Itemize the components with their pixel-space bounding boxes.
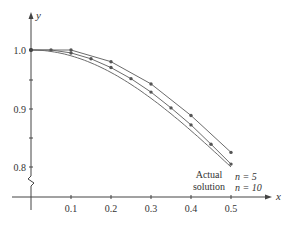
data-point-marker (169, 106, 172, 109)
series-line-actual-solution (31, 50, 231, 167)
label-actual-line1: Actual (196, 169, 223, 180)
series-layer (29, 48, 233, 167)
x-tick-label: 0.3 (145, 203, 158, 214)
y-tick-label: 1.0 (14, 45, 27, 56)
data-point-marker (189, 123, 192, 126)
y-tick-label: 0.9 (14, 104, 27, 115)
data-point-marker (129, 77, 132, 80)
data-point-marker (109, 60, 112, 63)
data-point-marker (149, 90, 152, 93)
x-tick-label: 0.5 (225, 203, 238, 214)
series-line-n-10 (31, 50, 231, 164)
x-tick-label: 0.1 (65, 203, 78, 214)
data-point-marker (69, 48, 72, 51)
y-axis-arrow-icon (29, 12, 34, 19)
x-tick-label: 0.2 (105, 203, 118, 214)
label-n5: n = 5 (235, 171, 257, 182)
initial-point-marker (29, 48, 33, 52)
data-point-marker (69, 51, 72, 54)
data-point-marker (189, 114, 192, 117)
y-axis-label: y (35, 9, 41, 21)
data-point-marker (89, 57, 92, 60)
x-axis-arrow-icon (265, 195, 272, 200)
data-point-marker (149, 82, 152, 85)
x-tick-label: 0.4 (185, 203, 198, 214)
label-actual-line2: solution (193, 181, 225, 192)
data-point-marker (209, 142, 212, 145)
data-point-marker (229, 151, 232, 154)
euler-approximation-chart: 1.0 0.9 0.8 0.1 0.2 0.3 0.4 0.5 y x n = … (0, 0, 294, 226)
axis-break-icon (28, 176, 34, 186)
series-line-n-5 (31, 50, 231, 152)
x-axis-label: x (275, 190, 281, 202)
axes (12, 16, 266, 210)
y-tick-label: 0.8 (14, 162, 27, 173)
label-n10: n = 10 (235, 182, 262, 193)
data-point-marker (109, 66, 112, 69)
